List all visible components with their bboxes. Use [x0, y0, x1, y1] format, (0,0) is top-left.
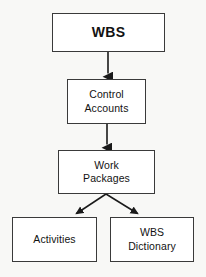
- node-wbs[interactable]: WBS: [52, 13, 165, 52]
- node-work-packages[interactable]: Work Packages: [58, 150, 155, 194]
- connector-work-packages-to-activities: [77, 194, 107, 214]
- node-activities-label: Activities: [31, 233, 77, 246]
- node-activities[interactable]: Activities: [12, 217, 97, 262]
- wbs-hierarchy-diagram: WBS Control Accounts Work Packages Activ…: [0, 0, 206, 277]
- node-wbs-dictionary[interactable]: WBS Dictionary: [110, 217, 194, 262]
- node-control-accounts-label: Control Accounts: [83, 88, 131, 115]
- node-work-packages-label: Work Packages: [81, 159, 132, 186]
- node-wbs-dictionary-label: WBS Dictionary: [126, 226, 178, 253]
- node-wbs-label: WBS: [90, 24, 128, 42]
- connector-work-packages-to-wbs-dictionary: [106, 194, 138, 214]
- node-control-accounts[interactable]: Control Accounts: [67, 79, 146, 124]
